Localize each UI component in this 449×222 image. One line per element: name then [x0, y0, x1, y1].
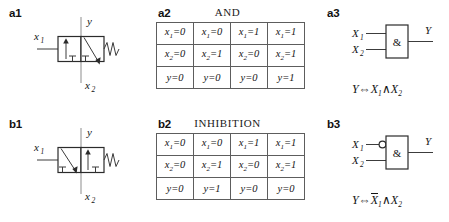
panel-b2: b2 INHIBITION x1=0 x1=0 x1=1 x1=1 x2=0 x…: [150, 111, 305, 222]
gate-input-label-x2-a3: X: [351, 43, 360, 55]
table-row: y=0 y=1 y=0 y=0: [157, 178, 305, 200]
table-cell: y=0: [157, 67, 194, 89]
valve-port-label-x1-b1: x: [33, 141, 39, 153]
valve-body-left-chamber-a1: [58, 37, 81, 62]
panel-b3: b3 X 1 X 2 & Y Y⇔X1∧X2: [305, 111, 449, 222]
valve-body-right-chamber-b1: [81, 148, 104, 173]
valve-port-label-x1-sub-b1: 1: [41, 147, 45, 156]
formula-conj-a3: ∧: [382, 82, 391, 96]
formula-arg1-negation-overbar-b3: X: [371, 193, 378, 207]
table-cell: x1=0: [157, 23, 194, 45]
panel-a2: a2 AND x1=0 x1=0 x1=1 x1=1 x2=0 x2=1 x2=…: [150, 0, 305, 111]
table-cell: y=0: [194, 67, 231, 89]
table-cell: y=0: [157, 178, 194, 200]
panel-b1: b1 y x 2 x 1: [0, 111, 150, 222]
logic-gate-diagram-b3: X 1 X 2 & Y: [305, 111, 449, 191]
formula-equiv-a3: ⇔: [359, 82, 371, 96]
formula-b3: Y⇔X1∧X2: [305, 193, 449, 209]
table-cell: x2=1: [194, 45, 231, 67]
table-cell: y=0: [231, 67, 268, 89]
table-cell: x1=1: [231, 23, 268, 45]
formula-a3: Y⇔X1∧X2: [305, 82, 449, 98]
table-cell: y=1: [194, 178, 231, 200]
table-cell: x1=1: [268, 23, 305, 45]
table-cell: x2=0: [157, 156, 194, 178]
formula-arg1-a3: X: [371, 82, 378, 96]
truth-table-and: x1=0 x1=0 x1=1 x1=1 x2=0 x2=1 x2=0 x2=1 …: [156, 22, 305, 89]
gate-input-label-x1-sub-a3: 1: [360, 33, 364, 42]
valve-spring-b1: [104, 154, 119, 167]
formula-conj-b3: ∧: [382, 193, 391, 207]
table-cell: x2=1: [268, 45, 305, 67]
gate-symbol-ampersand-b3: &: [393, 147, 402, 159]
valve-port-label-x2-sub-a1: 2: [92, 85, 96, 94]
panel-a3: a3 X 1 X 2 & Y Y⇔X1∧X2: [305, 0, 449, 111]
truth-table-title-inhibition: INHIBITION: [155, 117, 300, 129]
valve-port-label-y-b1: y: [86, 126, 92, 138]
table-row: x1=0 x1=0 x1=1 x1=1: [157, 23, 305, 45]
table-row: y=0 y=0 y=0 y=1: [157, 67, 305, 89]
table-cell: y=0: [231, 178, 268, 200]
gate-input-label-x1-sub-b3: 1: [360, 144, 364, 153]
table-cell: x1=0: [157, 134, 194, 156]
formula-equiv-b3: ⇔: [359, 193, 371, 207]
gate-symbol-ampersand-a3: &: [393, 36, 402, 48]
formula-arg1-b3: X: [371, 193, 378, 207]
gate-input-label-x1-b3: X: [351, 138, 360, 150]
table-cell: y=1: [268, 67, 305, 89]
truth-table-inhibition: x1=0 x1=0 x1=1 x1=1 x2=0 x2=1 x2=0 x2=1 …: [156, 133, 305, 200]
table-cell: x1=1: [268, 134, 305, 156]
valve-spring-a1: [104, 43, 119, 56]
valve-port-label-y-a1: y: [86, 15, 92, 27]
valve-diagram-a1: y x 2 x 1: [0, 0, 150, 111]
panel-a1: a1 y x 2 x 1: [0, 0, 150, 111]
table-row: x1=0 x1=0 x1=1 x1=1: [157, 134, 305, 156]
table-cell: x1=1: [231, 134, 268, 156]
valve-diagram-b1: y x 2 x 1: [0, 111, 150, 222]
table-cell: y=0: [268, 178, 305, 200]
truth-table-title-and: AND: [155, 6, 300, 18]
table-cell: x2=0: [231, 156, 268, 178]
table-row: x2=0 x2=1 x2=0 x2=1: [157, 45, 305, 67]
valve-port-label-x2-b1: x: [84, 190, 90, 202]
valve-port-label-x1-a1: x: [33, 30, 39, 42]
formula-lhs-a3: Y: [352, 82, 359, 96]
valve-port-label-x2-sub-b1: 2: [92, 196, 96, 205]
valve-body-left-chamber-b1: [58, 148, 81, 173]
valve-port-label-x2-a1: x: [84, 79, 90, 91]
formula-arg2-sub-b3: 2: [398, 200, 402, 209]
table-row: x2=0 x2=1 x2=0 x2=1: [157, 156, 305, 178]
valve-body-right-chamber-a1: [81, 37, 104, 62]
gate-input-label-x2-sub-a3: 2: [360, 49, 364, 58]
formula-arg2-sub-a3: 2: [398, 89, 402, 98]
table-cell: x2=1: [194, 156, 231, 178]
logic-gate-diagram-a3: X 1 X 2 & Y: [305, 0, 449, 80]
table-cell: x1=0: [194, 134, 231, 156]
gate-input-label-x2-sub-b3: 2: [360, 160, 364, 169]
table-cell: x2=0: [157, 45, 194, 67]
gate-input-label-x2-b3: X: [351, 154, 360, 166]
table-cell: x1=0: [194, 23, 231, 45]
gate-output-label-y-b3: Y: [425, 135, 433, 147]
valve-port-label-x1-sub-a1: 1: [41, 36, 45, 45]
table-cell: x2=1: [268, 156, 305, 178]
formula-lhs-b3: Y: [352, 193, 359, 207]
gate-output-label-y-a3: Y: [425, 24, 433, 36]
gate-input-label-x1-a3: X: [351, 27, 360, 39]
table-cell: x2=0: [231, 45, 268, 67]
gate-inversion-bubble-icon-b3: [379, 141, 386, 148]
